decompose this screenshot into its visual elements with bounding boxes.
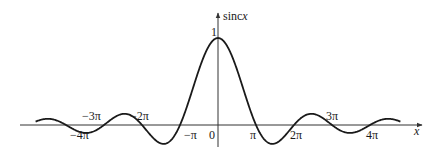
x-tick-label: −4π bbox=[70, 128, 89, 142]
x-tick-label: −π bbox=[184, 128, 197, 142]
axes bbox=[20, 13, 422, 147]
y-tick-label-1: 1 bbox=[211, 25, 217, 39]
x-axis-label: x bbox=[413, 124, 420, 138]
x-tick-label: 2π bbox=[290, 128, 302, 142]
x-tick-label: 0 bbox=[209, 128, 215, 142]
x-tick-label: −2π bbox=[130, 109, 149, 123]
x-tick-label: 4π bbox=[366, 128, 378, 142]
x-tick-label: 3π bbox=[326, 109, 338, 123]
y-axis-label: sincx bbox=[223, 9, 248, 23]
sinc-chart: sincx 1 x −4π−3π−2π−π0π2π3π4π bbox=[0, 0, 436, 159]
x-tick-label: −3π bbox=[82, 109, 101, 123]
x-tick-label: π bbox=[250, 128, 256, 142]
